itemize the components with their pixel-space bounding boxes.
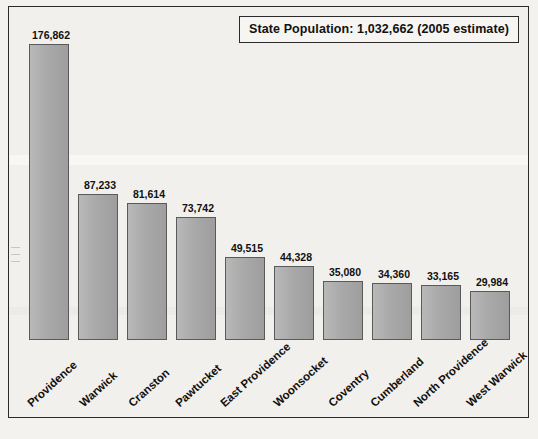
scan-artifact-mark — [11, 247, 20, 248]
bar-value-label: 33,165 — [415, 270, 471, 282]
bar-value-label: 176,862 — [23, 29, 79, 41]
cat-label-warwick: Warwick — [77, 369, 119, 409]
bar-value-label: 35,080 — [317, 266, 373, 278]
bar-value-label: 73,742 — [170, 202, 226, 214]
bar-value-label: 49,515 — [219, 242, 275, 254]
bar-woonsocket — [274, 266, 314, 340]
scan-artifact-mark — [11, 254, 20, 255]
cat-label-pawtucket: Pawtucket — [173, 362, 223, 409]
cat-label-providence: Providence — [25, 359, 79, 409]
cat-label-woonsocket: Woonsocket — [271, 354, 330, 409]
category-axis-labels: Providence Warwick Cranston Pawtucket Ea… — [23, 340, 523, 417]
bar-west-warwick — [470, 291, 510, 340]
bar-value-label: 34,360 — [366, 268, 422, 280]
bar-coventry — [323, 281, 363, 340]
bar-value-label: 44,328 — [268, 251, 324, 263]
bar-east-providence — [225, 257, 265, 340]
bar-value-label: 87,233 — [72, 179, 128, 191]
bar-providence — [29, 44, 69, 340]
bar-cumberland — [372, 283, 412, 340]
cat-label-coventry: Coventry — [326, 367, 371, 409]
bar-value-label: 81,614 — [121, 188, 177, 200]
chart-frame: State Population: 1,032,662 (2005 estima… — [8, 6, 529, 418]
bar-pawtucket — [176, 217, 216, 340]
chart-page: State Population: 1,032,662 (2005 estima… — [0, 0, 538, 439]
bars-area: 176,862 87,233 81,614 73,742 49,515 — [23, 22, 523, 340]
cat-label-cranston: Cranston — [126, 366, 172, 409]
bar-cranston — [127, 203, 167, 340]
bar-warwick — [78, 194, 118, 340]
bar-north-providence — [421, 285, 461, 340]
scan-artifact-mark — [11, 261, 20, 262]
bar-value-label: 29,984 — [464, 276, 520, 288]
